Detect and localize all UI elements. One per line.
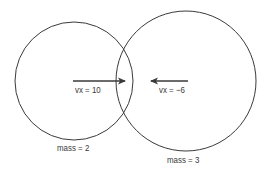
ball-left-velocity-label: vx = 10 xyxy=(75,85,101,95)
collision-diagram xyxy=(0,0,268,169)
ball-right-mass-label: mass = 3 xyxy=(167,155,199,165)
ball-left-mass-label: mass = 2 xyxy=(57,143,89,153)
ball-right-velocity-label: vx = −6 xyxy=(159,85,185,95)
